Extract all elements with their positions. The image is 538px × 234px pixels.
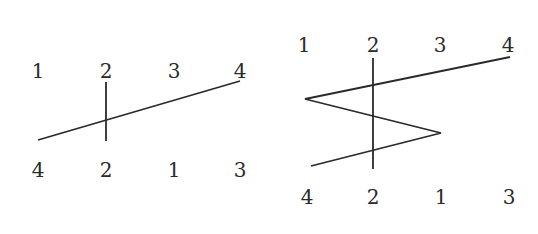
left-bottom-label-1: 4 xyxy=(32,160,45,180)
right-bottom-label-2: 2 xyxy=(367,187,380,207)
right-bottom-label-4: 3 xyxy=(503,187,516,207)
right-bottom-label-1: 4 xyxy=(301,187,314,207)
right-top-label-1: 1 xyxy=(298,35,311,55)
left-top-label-2: 2 xyxy=(100,61,113,81)
left-bottom-label-4: 3 xyxy=(234,160,247,180)
left-top-label-3: 3 xyxy=(168,61,181,81)
right-bottom-label-3: 1 xyxy=(435,187,448,207)
right-top-label-4: 4 xyxy=(502,35,515,55)
right-top-label-2: 2 xyxy=(367,35,380,55)
left-top-label-4: 4 xyxy=(234,61,247,81)
left-permutation-path xyxy=(38,81,240,140)
left-bottom-label-2: 2 xyxy=(100,160,113,180)
diagram-canvas: 1 2 3 4 4 2 1 3 1 2 3 4 4 2 1 3 xyxy=(0,0,538,234)
left-top-label-1: 1 xyxy=(32,61,45,81)
right-top-label-3: 3 xyxy=(434,35,447,55)
diagram-lines xyxy=(0,0,538,234)
right-permutation-path xyxy=(305,57,510,166)
left-bottom-label-3: 1 xyxy=(168,160,181,180)
